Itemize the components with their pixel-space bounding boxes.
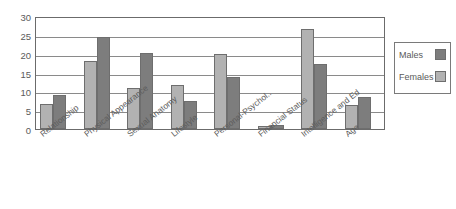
legend-label-males: Males [399,50,423,60]
legend-label-females: Females [399,72,434,82]
y-tick-label-10: 10 [5,88,31,97]
bar-females-6 [301,29,314,129]
bar-females-1 [84,61,97,129]
bar-males-7 [358,97,371,129]
bar-group [167,18,211,129]
y-tick-label-20: 20 [5,51,31,60]
bar-group [341,18,385,129]
bar-females-4 [214,54,227,129]
x-axis-labels: RelationshipPhysical AppearanceSexual An… [0,131,456,209]
y-tick-label-15: 15 [5,70,31,79]
bar-chart: 30 25 20 15 10 5 0 RelationshipPhysical … [0,0,456,209]
legend-item-males: Males [395,46,450,68]
y-tick-label-5: 5 [5,107,31,116]
legend-swatch-males [435,49,446,60]
legend-item-females: Females [395,68,450,90]
legend-swatch-females [435,71,446,82]
y-tick-label-25: 25 [5,32,31,41]
legend: Males Females [394,42,451,94]
y-tick-label-30: 30 [5,13,31,22]
